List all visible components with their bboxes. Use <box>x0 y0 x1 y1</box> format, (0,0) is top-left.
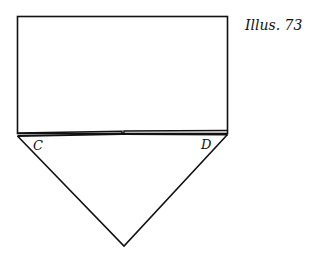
triangle-flap <box>18 135 228 247</box>
label-c: C <box>33 138 43 153</box>
illustration-caption: Illus. 73 <box>245 17 302 33</box>
folding-diagram: C D <box>0 0 317 258</box>
label-d: D <box>200 137 212 152</box>
rectangle-panel <box>18 17 228 134</box>
